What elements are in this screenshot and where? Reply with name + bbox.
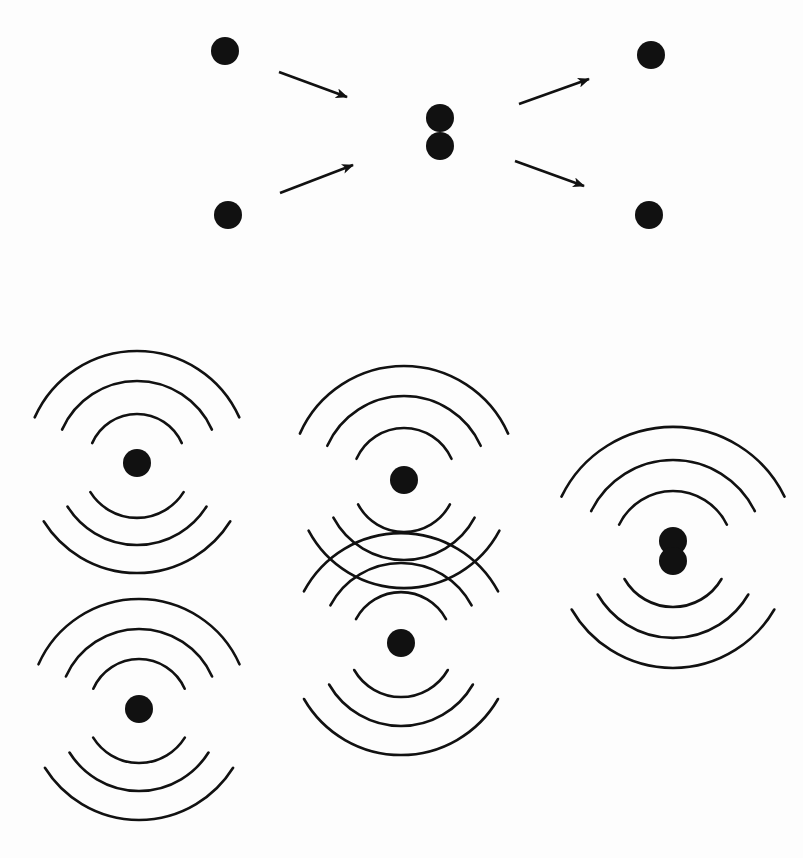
wavefront-lower-3 (44, 521, 231, 573)
wavefront-lower-1 (354, 670, 448, 697)
wavefront-upper-1 (92, 414, 182, 443)
wavefront-upper-2 (62, 381, 212, 430)
left-bottom-emitter (39, 599, 240, 820)
wavefront-upper-2 (327, 396, 480, 446)
wavefront-upper-2 (591, 460, 755, 511)
wavefront-upper-2 (66, 629, 212, 676)
particle-outgoing-top (637, 41, 665, 69)
particle-incoming-bottom (214, 201, 242, 229)
diagram-canvas (0, 0, 803, 858)
particle-wave-diagram (0, 0, 803, 858)
wavefront-lower-1 (93, 738, 185, 763)
wavefront-upper-3 (39, 599, 240, 664)
left-top-emitter (35, 351, 240, 573)
arrow-in-top-icon (279, 72, 347, 97)
emitter-particle-2 (659, 547, 687, 575)
collision-panel (211, 37, 665, 229)
wavefront-lower-3 (45, 768, 233, 820)
wavefront-upper-1 (619, 491, 727, 525)
wavefront-upper-3 (35, 351, 240, 417)
wavefront-lower-2 (598, 595, 749, 638)
wavefront-upper-1 (356, 592, 446, 619)
emitter-particle-1 (390, 466, 418, 494)
wavefront-lower-1 (90, 492, 183, 518)
right-merged-emitter (562, 427, 785, 668)
emitter-particle-1 (123, 449, 151, 477)
wavefront-upper-2 (330, 563, 471, 605)
particle-merged-bottom (426, 132, 454, 160)
wavefront-upper-1 (357, 428, 452, 459)
wavefront-lower-2 (70, 753, 209, 791)
particle-incoming-top (211, 37, 239, 65)
center-top-emitter (300, 366, 508, 588)
wavefront-lower-1 (358, 504, 450, 532)
wavefront-lower-2 (333, 518, 474, 560)
wavefront-lower-1 (625, 579, 722, 607)
wavefront-lower-2 (329, 685, 473, 727)
wave-panel (35, 351, 785, 820)
particle-outgoing-bottom (635, 201, 663, 229)
arrow-out-top-icon (519, 79, 589, 104)
wavefront-upper-3 (562, 427, 785, 497)
particle-merged-top (426, 104, 454, 132)
wavefront-upper-1 (93, 659, 184, 689)
emitter-particle-1 (125, 695, 153, 723)
emitter-particle-1 (387, 629, 415, 657)
arrow-out-bottom-icon (515, 161, 584, 186)
arrow-in-bottom-icon (280, 165, 353, 193)
wavefront-upper-3 (300, 366, 508, 434)
wavefront-lower-2 (68, 507, 207, 545)
